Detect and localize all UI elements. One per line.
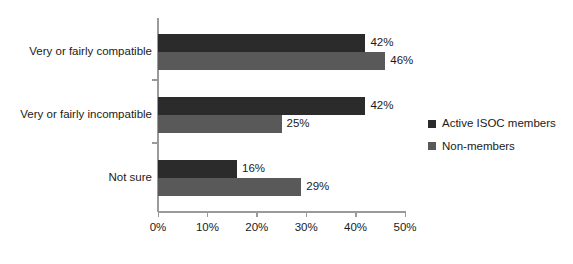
x-axis-tick: [256, 212, 258, 217]
x-axis-tick-label: 10%: [187, 222, 227, 234]
bar-0-2: [158, 160, 237, 178]
legend-swatch-icon: [428, 142, 436, 150]
x-axis-tick-label: 50%: [385, 222, 425, 234]
y-axis-tick: [152, 142, 158, 144]
bar-value-label: 46%: [390, 55, 413, 67]
x-axis-tick-label: 40%: [336, 222, 376, 234]
legend-item-1[interactable]: Non-members: [428, 141, 556, 153]
bar-value-label: 42%: [370, 100, 393, 112]
bar-chart: 0%10%20%30%40%50%Very or fairly compatib…: [0, 0, 573, 264]
legend-item-0[interactable]: Active ISOC members: [428, 118, 556, 130]
chart-legend: Active ISOC members Non-members: [428, 118, 556, 163]
x-axis-tick: [306, 212, 308, 217]
category-label: Not sure: [0, 172, 152, 184]
x-axis-tick: [355, 212, 357, 217]
legend-label: Non-members: [442, 141, 515, 153]
x-axis-tick-label: 20%: [237, 222, 277, 234]
bar-1-2: [158, 178, 301, 196]
bar-value-label: 25%: [287, 118, 310, 130]
x-axis-line: [158, 211, 406, 213]
x-axis-tick-label: 30%: [286, 222, 326, 234]
x-axis-tick: [158, 212, 160, 217]
bar-value-label: 16%: [242, 163, 265, 175]
legend-label: Active ISOC members: [442, 118, 556, 130]
bar-0-0: [158, 34, 365, 52]
bar-value-label: 29%: [306, 181, 329, 193]
bar-1-1: [158, 115, 282, 133]
bar-0-1: [158, 97, 365, 115]
legend-swatch-icon: [428, 120, 436, 128]
category-label: Very or fairly compatible: [0, 46, 152, 58]
x-axis-tick: [405, 212, 407, 217]
y-axis-tick: [152, 79, 158, 81]
x-axis-tick-label: 0%: [138, 222, 178, 234]
bar-1-0: [158, 52, 385, 70]
bar-value-label: 42%: [370, 37, 393, 49]
x-axis-tick: [207, 212, 209, 217]
category-label: Very or fairly incompatible: [0, 109, 152, 121]
